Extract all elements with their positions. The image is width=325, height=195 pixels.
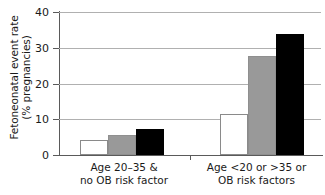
bar-group-0-series-0: [80, 140, 108, 155]
y-axis-tick-label-20: 20: [9, 78, 49, 89]
bar-group-0-series-1: [108, 135, 136, 155]
y-axis-tick-label-0: 0: [9, 150, 49, 161]
y-axis-tick-label-30: 30: [9, 42, 49, 53]
x-axis-group-separator-tick: [190, 155, 191, 160]
bar-group-1-series-2: [276, 34, 304, 155]
y-axis-tick-label-10: 10: [9, 114, 49, 125]
x-axis-category-label-0: Age 20–35 & no OB risk factor: [58, 161, 190, 186]
y-axis-tick-label-40: 40: [9, 7, 49, 18]
plot-area: [59, 12, 321, 155]
x-axis-category-label-1: Age <20 or >35 or OB risk factors: [190, 161, 323, 186]
bar-group-0-series-2: [136, 129, 164, 155]
y-axis-tick-0: [53, 155, 59, 156]
bar-chart: Fetoneonatal event rate (% pregnancies) …: [0, 0, 325, 195]
bar-group-1-series-1: [248, 56, 276, 155]
bar-group-1-series-0: [220, 114, 248, 155]
